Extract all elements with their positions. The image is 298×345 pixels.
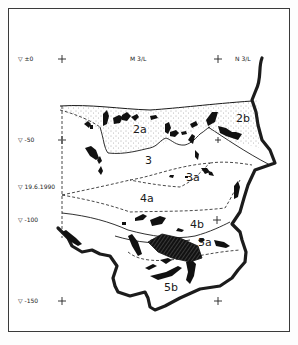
depth-marker-minus-150: ▽ -150 — [18, 297, 38, 304]
depth-marker-minus-50: ▽ -50 — [18, 136, 35, 143]
depth-marker-minus-100: ▽ -100 — [18, 216, 38, 223]
cross-icon — [58, 297, 66, 305]
layer-label-4a: 4a — [140, 192, 154, 205]
depth-marker-0: ▽ ±0 — [18, 55, 34, 62]
column-labels: M 3/L N 3/L — [130, 55, 251, 62]
column-label-n3l: N 3/L — [235, 55, 251, 62]
cross-icon — [214, 297, 222, 305]
layer-label-5b: 5b — [164, 281, 178, 294]
section-drawing: ▽ ±0 ▽ -50 ▽ 19.6.1990 ▽ -100 ▽ -150 M 3… — [0, 0, 298, 345]
layer-label-5a: 5a — [198, 236, 212, 249]
depth-marker-date: ▽ 19.6.1990 — [18, 183, 55, 190]
cross-icon — [213, 216, 221, 224]
depth-markers: ▽ ±0 ▽ -50 ▽ 19.6.1990 ▽ -100 ▽ -150 — [18, 55, 55, 304]
cross-icon — [215, 137, 221, 143]
boundary-3a-top — [210, 162, 252, 165]
layer-label-4b: 4b — [190, 218, 204, 231]
cross-icon — [58, 55, 66, 63]
layer-label-2b: 2b — [236, 112, 250, 125]
column-label-m3l: M 3/L — [130, 55, 147, 62]
cross-icon — [214, 55, 222, 63]
hatched-inclusion — [148, 234, 202, 262]
layer-label-3a: 3a — [186, 171, 200, 184]
boundary-3-4a — [62, 180, 130, 195]
figure-page: ▽ ±0 ▽ -50 ▽ 19.6.1990 ▽ -100 ▽ -150 M 3… — [0, 0, 298, 345]
layer-label-2a: 2a — [133, 123, 147, 136]
layer-label-3: 3 — [145, 154, 152, 167]
